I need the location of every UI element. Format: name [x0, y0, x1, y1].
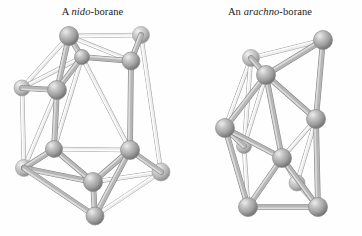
atom-sphere	[307, 110, 326, 129]
borane-figure: A nido-borane An arachno-borane	[0, 0, 362, 236]
bond	[82, 57, 130, 150]
atom-sphere	[314, 31, 333, 50]
atom-sphere	[121, 141, 140, 160]
atom-sphere	[46, 141, 63, 158]
bond-highlight	[265, 39, 322, 74]
atom-sphere	[48, 81, 67, 100]
atom-group-foreground	[46, 27, 333, 226]
bond-highlight	[129, 61, 130, 150]
atom-sphere	[60, 27, 79, 46]
atom-sphere	[216, 119, 235, 138]
atom-sphere	[122, 52, 140, 70]
atom-sphere	[309, 198, 328, 217]
atom-sphere	[84, 173, 103, 192]
atom-sphere	[86, 207, 104, 225]
bond	[141, 35, 161, 172]
bond-highlight	[81, 57, 129, 150]
atom-sphere	[257, 66, 276, 85]
bond-group-foreground	[22, 35, 323, 217]
bond-highlight	[140, 35, 160, 172]
atom-sphere	[273, 149, 292, 168]
atom-sphere	[239, 198, 258, 217]
molecular-cluster-diagram	[0, 0, 362, 236]
atom-sphere	[75, 50, 90, 65]
